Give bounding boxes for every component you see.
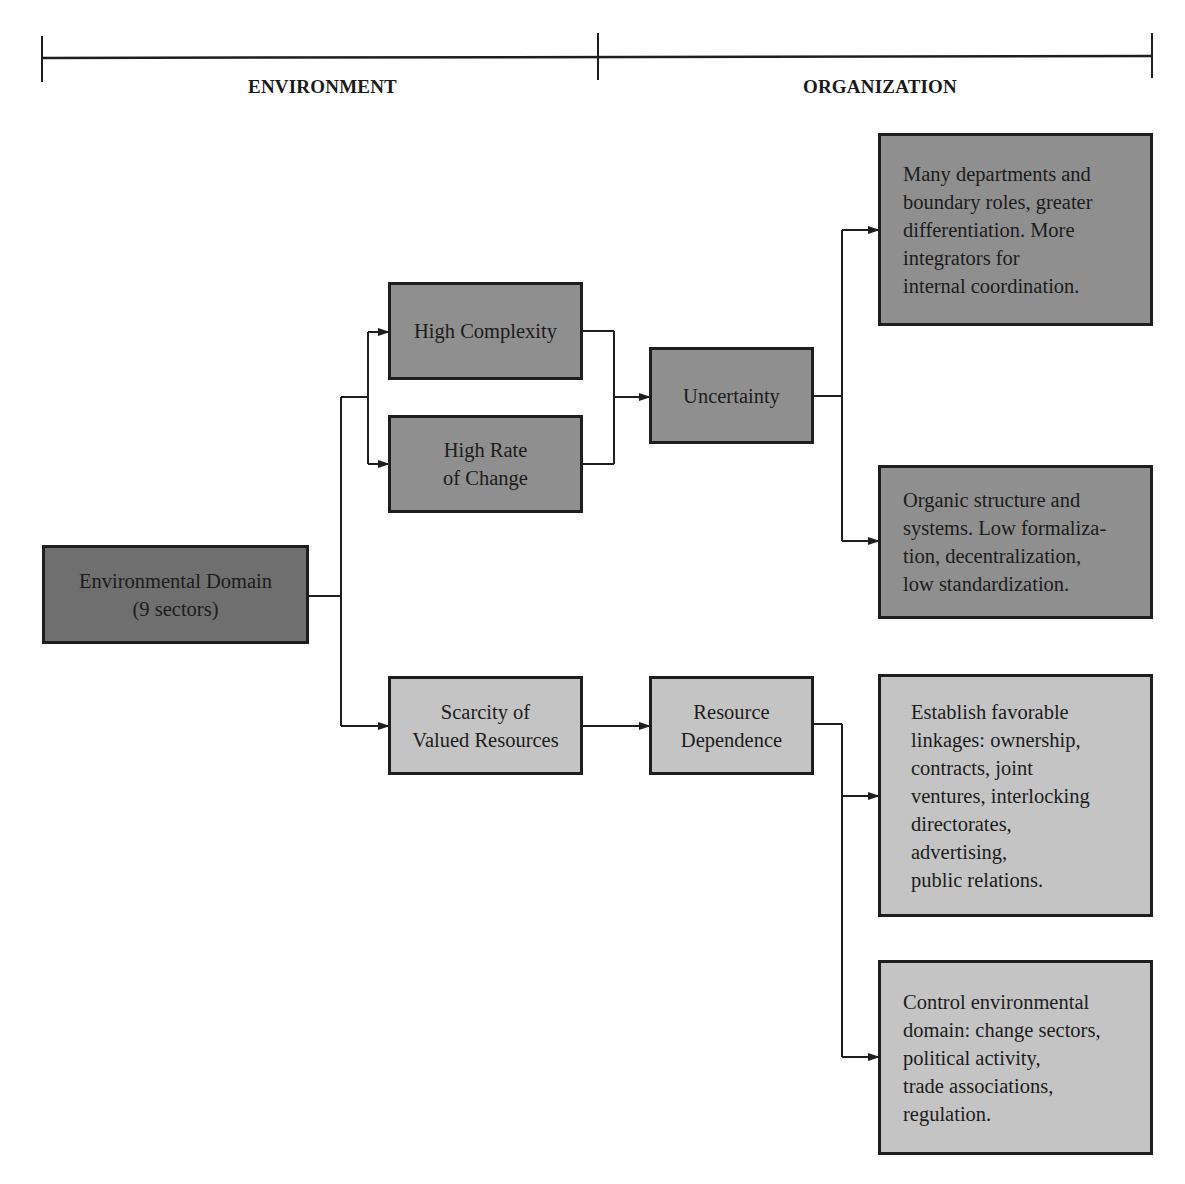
node-outcome-control-domain: Control environmental domain: change sec… — [878, 960, 1153, 1155]
node-label: Environmental Domain (9 sectors) — [79, 567, 272, 623]
node-uncertainty: Uncertainty — [649, 347, 814, 444]
node-resource-dependence: Resource Dependence — [649, 676, 814, 775]
node-label: Scarcity of Valued Resources — [412, 698, 558, 754]
node-label: Many departments and boundary roles, gre… — [903, 160, 1093, 300]
organization-header: ORGANIZATION — [755, 76, 1005, 98]
node-label: High Complexity — [414, 317, 557, 345]
node-outcome-departments: Many departments and boundary roles, gre… — [878, 133, 1153, 326]
node-scarcity-of-valued-resources: Scarcity of Valued Resources — [388, 676, 583, 775]
node-high-complexity: High Complexity — [388, 282, 583, 380]
node-high-rate-of-change: High Rate of Change — [388, 415, 583, 513]
node-label: Organic structure and systems. Low forma… — [903, 486, 1106, 598]
environment-organization-diagram: ENVIRONMENT ORGANIZATION Environmental D… — [0, 0, 1185, 1184]
node-environmental-domain: Environmental Domain (9 sectors) — [42, 545, 309, 644]
node-label: High Rate of Change — [443, 436, 528, 492]
node-label: Resource Dependence — [681, 698, 782, 754]
node-outcome-organic-structure: Organic structure and systems. Low forma… — [878, 465, 1153, 619]
node-label: Uncertainty — [683, 382, 780, 410]
node-outcome-favorable-linkages: Establish favorable linkages: ownership,… — [878, 674, 1153, 917]
node-label: Control environmental domain: change sec… — [903, 988, 1101, 1128]
environment-header: ENVIRONMENT — [200, 76, 445, 98]
node-label: Establish favorable linkages: ownership,… — [911, 698, 1090, 894]
